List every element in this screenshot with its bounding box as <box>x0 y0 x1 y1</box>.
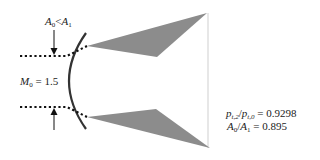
upper-wedge <box>87 13 207 57</box>
area-ratio-label: A0/A1 = 0.895 <box>227 121 287 132</box>
lower-wedge <box>87 109 210 148</box>
pressure-ratio-label: pt,2/pt,0 = 0.9298 <box>226 108 296 119</box>
area-ratio-top-label: A0<A1 <box>45 16 72 27</box>
shock-curve <box>69 33 86 129</box>
up-arrow-icon <box>51 108 58 130</box>
down-arrow-icon <box>51 30 58 55</box>
mach-label: M0 = 1.5 <box>20 76 58 87</box>
